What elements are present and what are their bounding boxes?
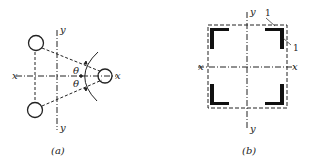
angle-label-top: θ [73,66,79,76]
axis-label-y-bottom-b: y [250,124,256,134]
dashed-link-bottom [42,80,102,106]
diagram-canvas [0,0,310,165]
circle-bottom-left [28,103,43,118]
arrow-top-icon [84,61,87,64]
axis-label-x-left-b: x [198,62,204,72]
section-label-1-top: 1 [265,9,271,18]
angle-bottom-left [210,84,229,105]
figure-a [16,30,116,130]
caption-a: (a) [51,146,65,156]
angle-bottom-right [265,84,284,105]
dashed-link-top [42,48,102,72]
axis-label-y-top-b: y [250,7,256,17]
circle-top-left [29,36,44,51]
axis-label-x-right-b: x [292,62,298,72]
axis-label-x-right-a: x [115,71,121,81]
arrow-bottom-icon [84,88,87,91]
axis-label-x-left-a: x [12,71,18,81]
vertex-dot [80,75,83,78]
angle-label-bottom: θ [73,79,79,89]
angle-top-right [265,28,284,49]
angle-top-left [210,28,229,49]
axis-label-y-bottom-a: y [60,123,66,133]
figure-b [198,12,296,130]
caption-b: (b) [242,146,256,156]
axis-label-y-top-a: y [60,25,66,35]
section-label-1-right: 1 [293,44,299,53]
